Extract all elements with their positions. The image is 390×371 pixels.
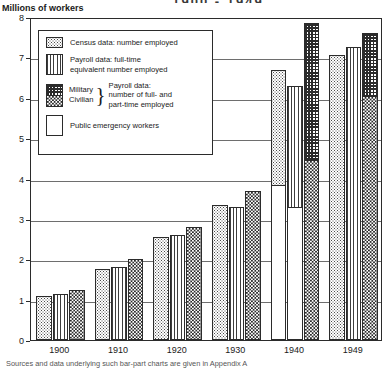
chart-legend: Census data: number employed Payroll dat…	[38, 30, 213, 155]
bar-payroll-total-1930	[245, 191, 261, 340]
bar-payroll-total-1940	[304, 23, 320, 340]
y-axis-label: Millions of workers	[2, 3, 84, 13]
chart-title: 1900 - 1949	[148, 0, 288, 3]
census-swatch	[46, 37, 63, 48]
x-tick-label-1930: 1930	[206, 345, 264, 355]
legend-label-payroll-fte-line2: equivalent number employed	[70, 65, 168, 74]
bar-payroll-fte-1910	[111, 267, 127, 340]
y-tick-label: 6	[0, 94, 24, 104]
civilian-swatch	[47, 95, 62, 106]
segment-census	[96, 270, 110, 339]
segment-civilian	[305, 160, 319, 339]
emergency-swatch	[46, 115, 63, 136]
legend-label-civilian: Civilian	[69, 95, 93, 105]
segment-payroll-fte	[347, 48, 361, 339]
segment-payroll-fte	[230, 208, 244, 339]
segment-emergency	[272, 185, 286, 339]
segment-military	[363, 34, 377, 96]
legend-label-census: Census data: number employed	[70, 38, 178, 47]
bar-census-1949	[329, 55, 345, 340]
y-tick-label: 7	[0, 53, 24, 63]
bar-payroll-total-1949	[362, 33, 378, 340]
bar-payroll-fte-1949	[346, 47, 362, 340]
segment-census	[37, 297, 51, 339]
chart-figure: 1900 - 1949 Millions of workers 01234567…	[0, 0, 390, 371]
segment-payroll-fte	[288, 87, 302, 207]
segment-civilian	[70, 291, 84, 339]
military-swatch	[47, 85, 62, 95]
bar-payroll-total-1920	[186, 227, 202, 340]
y-tick-label: 3	[0, 215, 24, 225]
bar-payroll-total-1910	[128, 259, 144, 340]
bar-census-1930	[212, 205, 228, 340]
x-tick-label-1940: 1940	[265, 345, 323, 355]
bar-census-1920	[153, 237, 169, 340]
x-tick-label-1900: 1900	[30, 345, 88, 355]
bar-payroll-fte-1930	[229, 207, 245, 340]
legend-item-military-civilian: Military Civilian } Payroll data: number…	[46, 81, 206, 109]
legend-item-emergency: Public emergency workers	[46, 115, 206, 136]
y-tick-label: 0	[0, 336, 24, 346]
bar-census-1910	[95, 269, 111, 340]
chart-footnote: Sources and data underlying such bar-par…	[6, 359, 390, 370]
segment-payroll-fte	[54, 295, 68, 339]
legend-item-census: Census data: number employed	[46, 37, 206, 48]
segment-census	[213, 206, 227, 339]
bar-payroll-fte-1920	[170, 235, 186, 340]
y-tick-label: 5	[0, 134, 24, 144]
legend-label-military: Military	[69, 85, 93, 95]
legend-label-payroll-total-line3: part-time employed	[109, 100, 174, 109]
segment-census	[272, 71, 286, 185]
segment-payroll-fte	[171, 236, 185, 339]
segment-census	[154, 238, 168, 339]
y-tick-label: 4	[0, 175, 24, 185]
bar-census-1940	[271, 70, 287, 341]
segment-civilian	[363, 96, 377, 339]
x-tick-label-1910: 1910	[89, 345, 147, 355]
y-tick-label: 1	[0, 296, 24, 306]
y-tick-label: 8	[0, 13, 24, 23]
legend-label-payroll-total-line2: number of full- and	[109, 90, 174, 99]
legend-label-payroll-fte-line1: Payroll data: full-time	[70, 55, 168, 64]
segment-civilian	[129, 260, 143, 339]
segment-payroll-fte	[112, 268, 126, 339]
bar-payroll-fte-1900	[53, 294, 69, 340]
segment-census	[330, 56, 344, 339]
bar-payroll-total-1900	[69, 290, 85, 340]
y-tick-label: 2	[0, 255, 24, 265]
x-tick-label-1949: 1949	[324, 345, 382, 355]
y-tick-mark	[26, 341, 30, 342]
segment-military	[305, 24, 319, 160]
segment-emergency	[288, 207, 302, 339]
payroll-fte-swatch	[46, 54, 63, 75]
segment-civilian	[187, 228, 201, 339]
x-tick-label-1920: 1920	[148, 345, 206, 355]
legend-label-payroll-total-line1: Payroll data:	[109, 81, 174, 90]
brace-glyph: }	[95, 85, 105, 105]
bar-census-1900	[36, 296, 52, 340]
legend-label-emergency: Public emergency workers	[70, 121, 159, 130]
segment-civilian	[246, 192, 260, 339]
bar-payroll-fte-1940	[287, 86, 303, 340]
legend-item-payroll-fte: Payroll data: full-time equivalent numbe…	[46, 54, 206, 75]
military-civilian-swatch	[46, 84, 63, 107]
